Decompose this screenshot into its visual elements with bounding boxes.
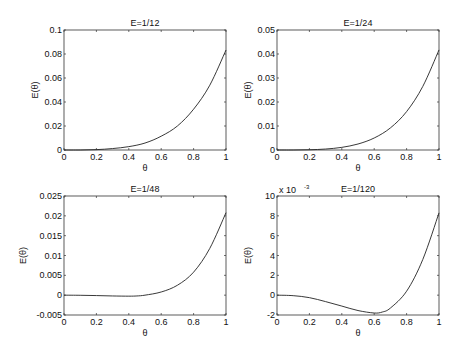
y-tick-label: 0.1	[49, 25, 62, 35]
y-tick-label: 0.06	[44, 73, 62, 83]
y-tick-label: 0	[57, 145, 62, 155]
chart-title: E=1/120	[341, 184, 375, 194]
x-axis-label: θ	[355, 163, 360, 173]
y-tick-label: 4	[270, 251, 275, 261]
x-tick-label: 0.8	[400, 317, 413, 327]
x-tick-label: 0.6	[368, 317, 381, 327]
subplot-3: 00.20.40.60.81-0.00500.0050.010.0150.020…	[18, 184, 229, 338]
y-tick-label: 0.01	[257, 121, 275, 131]
series-line	[277, 213, 439, 313]
y-tick-label: 0.01	[44, 251, 62, 261]
x-tick-label: 0.2	[90, 152, 103, 162]
chart-title: E=1/12	[131, 18, 160, 28]
x-tick-label: 1	[223, 317, 228, 327]
y-tick-label: 0.05	[257, 25, 275, 35]
y-axis-label: E(θ)	[30, 81, 40, 98]
axes-frame	[64, 30, 226, 150]
x-tick-label: 0.8	[187, 152, 200, 162]
x-axis-label: θ	[355, 328, 360, 338]
y-tick-label: 0.025	[39, 191, 62, 201]
y-tick-label: 0.04	[44, 97, 62, 107]
x-tick-label: 0.2	[303, 317, 316, 327]
x-tick-label: 0.8	[187, 317, 200, 327]
x-tick-label: 0.8	[400, 152, 413, 162]
y-tick-label: 0.03	[257, 73, 275, 83]
figure: 00.20.40.60.8100.020.040.060.080.1E=1/12…	[0, 0, 460, 352]
x-tick-label: 0.6	[155, 152, 168, 162]
axes-frame	[277, 196, 439, 315]
y-tick-label: 2	[270, 270, 275, 280]
axes-frame	[64, 196, 226, 315]
x-tick-label: 0	[274, 152, 279, 162]
x-tick-label: 0.4	[123, 317, 136, 327]
y-tick-label: -2	[267, 310, 275, 320]
y-tick-label: 10	[265, 191, 275, 201]
y-axis-label: E(θ)	[243, 247, 253, 264]
subplot-4: 00.20.40.60.81-20246810E=1/120θE(θ)x 10-…	[243, 184, 442, 338]
y-tick-label: 0.08	[44, 49, 62, 59]
y-tick-label: 0	[57, 290, 62, 300]
x-tick-label: 0	[274, 317, 279, 327]
y-tick-label: 8	[270, 211, 275, 221]
axis-exponent-power: -3	[304, 184, 310, 190]
y-tick-label: 0	[270, 290, 275, 300]
subplot-1: 00.20.40.60.8100.020.040.060.080.1E=1/12…	[30, 18, 229, 173]
chart-title: E=1/24	[344, 18, 373, 28]
y-tick-label: 0.015	[39, 231, 62, 241]
y-axis-label: E(θ)	[243, 81, 253, 98]
x-tick-label: 0.6	[368, 152, 381, 162]
subplot-2: 00.20.40.60.8100.010.020.030.040.05E=1/2…	[243, 18, 442, 173]
x-tick-label: 1	[223, 152, 228, 162]
x-tick-label: 0.4	[336, 152, 349, 162]
y-tick-label: 0	[270, 145, 275, 155]
chart-title: E=1/48	[131, 184, 160, 194]
y-tick-label: 0.005	[39, 270, 62, 280]
x-tick-label: 0.4	[123, 152, 136, 162]
x-tick-label: 0.2	[303, 152, 316, 162]
x-tick-label: 0.2	[90, 317, 103, 327]
y-tick-label: 0.02	[44, 121, 62, 131]
y-tick-label: 0.02	[44, 211, 62, 221]
x-tick-label: 0.4	[336, 317, 349, 327]
y-tick-label: 0.02	[257, 97, 275, 107]
series-line	[64, 50, 226, 150]
x-tick-label: 1	[436, 317, 441, 327]
x-axis-label: θ	[142, 328, 147, 338]
x-tick-label: 0	[61, 317, 66, 327]
x-tick-label: 0.6	[155, 317, 168, 327]
axis-exponent-label: x 10	[279, 185, 296, 195]
series-line	[64, 213, 226, 296]
y-tick-label: 6	[270, 231, 275, 241]
x-tick-label: 0	[61, 152, 66, 162]
axes-frame	[277, 30, 439, 150]
x-axis-label: θ	[142, 163, 147, 173]
y-tick-label: -0.005	[36, 310, 62, 320]
series-line	[277, 50, 439, 150]
y-tick-label: 0.04	[257, 49, 275, 59]
x-tick-label: 1	[436, 152, 441, 162]
y-axis-label: E(θ)	[18, 247, 28, 264]
